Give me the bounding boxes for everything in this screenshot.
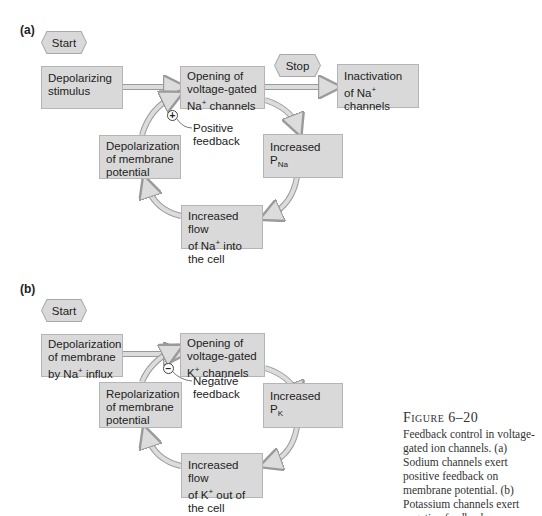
box-text-line: of membrane — [48, 351, 116, 364]
box-text: out of — [213, 489, 245, 501]
box-text: Increased PNa — [270, 141, 336, 171]
figure-caption: Figure 6–20 Feedback control in voltage-… — [403, 410, 542, 516]
ion-text: Na — [187, 100, 202, 112]
caption-title: Figure 6–20 — [403, 410, 542, 426]
box-text-line: potential — [106, 166, 174, 179]
box-increased-flow-k: Increased flow of K+ out of the cell — [181, 453, 263, 498]
start-hex-a: Start — [42, 32, 86, 53]
ion-text: of K — [188, 489, 208, 501]
box-increased-p-na: Increased PNa — [263, 134, 343, 178]
panel-b-label: (b) — [20, 282, 35, 296]
stop-hex: Stop — [275, 55, 320, 76]
arrow-flow-to-depolarization-a — [147, 186, 181, 216]
ion-text: of Na — [344, 87, 372, 99]
annot-line: feedback — [193, 135, 240, 148]
box-text: channels — [344, 100, 390, 112]
minus-sign-icon: − — [163, 363, 174, 374]
box-text-line: the cell — [188, 502, 256, 515]
annot-line: Positive — [193, 122, 240, 135]
positive-feedback-label: Positive feedback — [193, 122, 240, 148]
arrow-increased-p-to-flow-b — [270, 427, 297, 463]
box-text-line: of membrane — [106, 153, 174, 166]
box-text: channels — [206, 100, 255, 112]
ion-subscript: K — [278, 410, 283, 419]
arrow-opening-to-increased-p-a — [265, 100, 297, 126]
box-text-line: Opening of — [187, 337, 258, 350]
annot-line: Negative — [193, 375, 240, 388]
box-text-line: voltage-gated — [187, 83, 258, 96]
start-label-a: Start — [52, 37, 76, 49]
ion-text: of Na — [188, 240, 216, 252]
box-text-line: by Na+ influx — [48, 364, 116, 381]
box-text-line: Opening of — [187, 70, 258, 83]
box-opening-k-channels: Opening of voltage-gated K+ channels — [180, 333, 265, 377]
start-label-b: Start — [52, 305, 76, 317]
plus-sign-icon: + — [167, 110, 178, 121]
negative-feedback-label: Negative feedback — [193, 375, 240, 401]
arrow-increased-p-to-flow-a — [270, 177, 297, 215]
positive-feedback-leader — [177, 119, 192, 128]
box-text-line: Na+ channels — [187, 96, 258, 113]
arrow-flow-to-repolarization-b — [147, 436, 181, 466]
box-text-line: Repolarization — [106, 388, 175, 401]
ion-text: by Na — [48, 368, 78, 380]
box-text-line: of Na+ channels — [344, 83, 412, 113]
box-text-line: Depolarizing — [48, 72, 116, 85]
box-text: influx — [83, 368, 113, 380]
box-text-line: stimulus — [48, 85, 116, 98]
box-text: Increased PK — [270, 390, 336, 420]
box-text-line: Inactivation — [344, 70, 412, 83]
box-text-line: potential — [106, 414, 175, 427]
box-text-line: of K+ out of — [188, 485, 256, 502]
charge-superscript: + — [372, 85, 377, 94]
annot-line: feedback — [193, 388, 240, 401]
box-text-line: of Na+ into — [188, 236, 256, 253]
box-increased-p-k: Increased PK — [263, 383, 343, 428]
box-text-line: Depolarization — [48, 338, 116, 351]
box-depolarizing-stimulus: Depolarizing stimulus — [41, 66, 123, 109]
ion-subscript: Na — [278, 160, 288, 169]
box-depolarization-na-influx: Depolarization of membrane by Na+ influx — [41, 334, 123, 377]
box-text-line: Depolarization — [106, 140, 174, 153]
box-text: into — [220, 240, 242, 252]
box-text-line: Increased flow — [188, 459, 256, 485]
panel-a-label: (a) — [20, 23, 35, 37]
figure-root: (a) Start Stop Depolarizing stimulus Ope… — [0, 0, 542, 516]
box-depolarization-membrane-potential: Depolarization of membrane potential — [99, 135, 181, 179]
box-text-line: Increased flow — [188, 210, 256, 236]
box-inactivation-na-channels: Inactivation of Na+ channels — [337, 64, 419, 108]
box-increased-flow-na: Increased flow of Na+ into the cell — [181, 205, 263, 249]
stop-label: Stop — [286, 60, 310, 72]
start-hex-b: Start — [42, 300, 86, 321]
box-opening-na-channels: Opening of voltage-gated Na+ channels — [180, 66, 265, 109]
box-text-line: of membrane — [106, 401, 175, 414]
box-text-line: the cell — [188, 253, 256, 266]
box-text-line: voltage-gated — [187, 350, 258, 363]
caption-text: Feedback control in voltage-gated ion ch… — [403, 427, 542, 516]
box-repolarization-membrane-potential: Repolarization of membrane potential — [99, 382, 182, 428]
